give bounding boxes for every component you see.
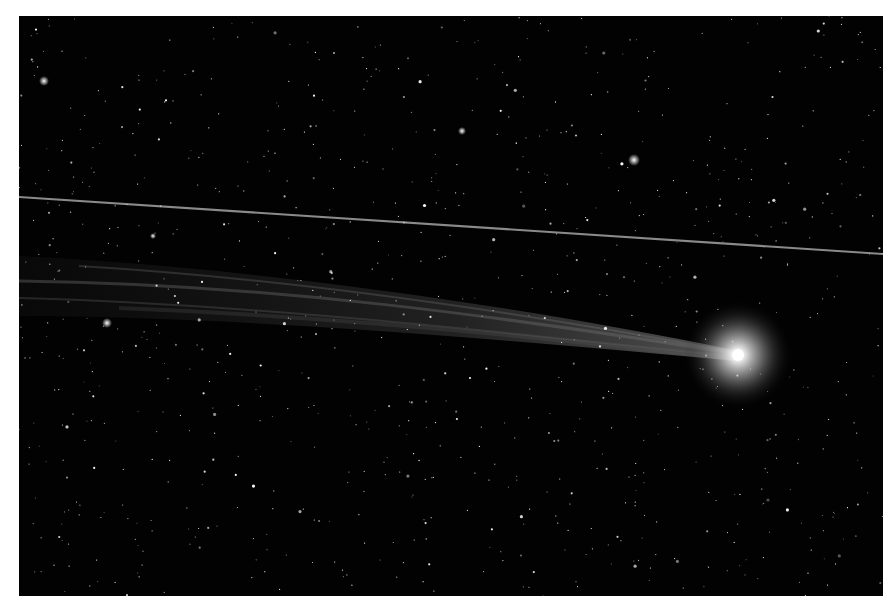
star-field bbox=[19, 16, 883, 596]
satellite-trail bbox=[19, 197, 883, 254]
comet-photograph bbox=[19, 16, 883, 596]
comet-tail bbox=[19, 256, 739, 361]
